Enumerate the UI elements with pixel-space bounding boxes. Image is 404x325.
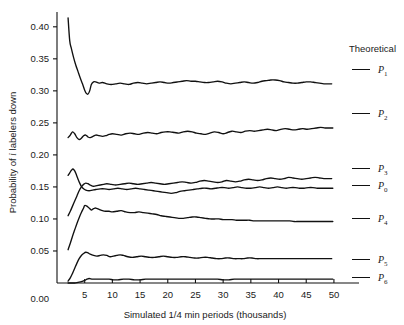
series-subscript-P4: 4 <box>384 219 388 227</box>
y-tick-label: 0.25 <box>31 117 50 128</box>
series-label-P2: P2 <box>377 108 388 122</box>
x-tick-label: 45 <box>301 289 312 300</box>
ylabel-post: labelers down <box>7 92 18 153</box>
curve-P5 <box>68 252 332 281</box>
y-tick-label: 0.10 <box>31 213 50 224</box>
x-tick-label: 50 <box>329 289 340 300</box>
chart-figure: 0.000.050.100.150.200.250.300.350.40 510… <box>0 0 404 325</box>
y-tick-label: 0.20 <box>31 149 50 160</box>
series-subscript-P1: 1 <box>384 70 388 78</box>
curve-P4 <box>68 205 333 249</box>
curve-P1 <box>68 18 332 94</box>
data-curves <box>68 18 333 283</box>
series-subscript-P5: 5 <box>384 260 388 268</box>
probability-line-chart: 0.000.050.100.150.200.250.300.350.40 510… <box>0 0 404 325</box>
y-tick-label: 0.05 <box>31 245 50 256</box>
y-tick-label: 0.35 <box>31 53 50 64</box>
series-subscript-P3: 3 <box>384 169 388 177</box>
series-label-P5: P5 <box>377 254 388 268</box>
x-tick-label: 35 <box>246 289 257 300</box>
x-tick-label: 10 <box>107 289 118 300</box>
x-tick-label: 15 <box>135 289 146 300</box>
curve-P2 <box>68 127 333 139</box>
series-label-P1: P1 <box>377 64 388 78</box>
y-tick-label: 0.00 <box>31 293 50 304</box>
legend-group: P1P2P3P0P4P5P6 <box>352 64 388 286</box>
series-label-P4: P4 <box>377 213 388 227</box>
curve-P3 <box>68 177 332 215</box>
x-tick-label: 30 <box>218 289 229 300</box>
series-subscript-P6: 6 <box>384 278 388 286</box>
series-label-P3: P3 <box>377 163 388 177</box>
x-axis-ticks: 5101520253035404550 <box>82 279 339 300</box>
series-label-P6: P6 <box>377 272 388 286</box>
y-axis-label: Probability of i labelers down <box>7 92 18 213</box>
curve-P6 <box>68 279 333 284</box>
series-subscript-P0: 0 <box>384 186 388 194</box>
x-tick-label: 40 <box>273 289 284 300</box>
y-axis-ticks: 0.000.050.100.150.200.250.300.350.40 <box>31 21 58 304</box>
series-subscript-P2: 2 <box>384 114 388 122</box>
x-tick-label: 20 <box>162 289 173 300</box>
series-label-P0: P0 <box>377 180 388 194</box>
x-tick-label: 25 <box>190 289 201 300</box>
y-tick-label: 0.30 <box>31 85 50 96</box>
legend-title: Theoretical <box>349 43 396 54</box>
y-tick-label: 0.40 <box>31 21 50 32</box>
ylabel-pre: Probability of <box>7 156 18 214</box>
x-tick-label: 5 <box>82 289 87 300</box>
y-tick-label: 0.15 <box>31 181 50 192</box>
x-axis-label: Simulated 1/4 min periods (thousands) <box>124 309 287 320</box>
